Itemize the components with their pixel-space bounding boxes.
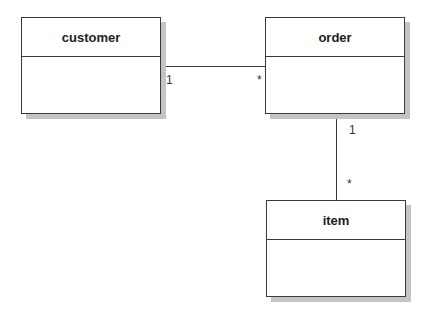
association-order-item[interactable]: [336, 114, 337, 200]
multiplicity-order-end-2: 1: [349, 124, 356, 136]
association-customer-order[interactable]: [161, 66, 265, 67]
multiplicity-item-end: *: [347, 178, 352, 190]
class-item[interactable]: item: [266, 200, 406, 297]
class-customer[interactable]: customer: [21, 17, 161, 114]
class-order[interactable]: order: [265, 17, 405, 114]
class-name: order: [266, 18, 404, 57]
multiplicity-customer-end: 1: [166, 74, 173, 86]
multiplicity-order-end: *: [257, 74, 262, 86]
class-name: customer: [22, 18, 160, 57]
class-name: item: [267, 201, 405, 240]
